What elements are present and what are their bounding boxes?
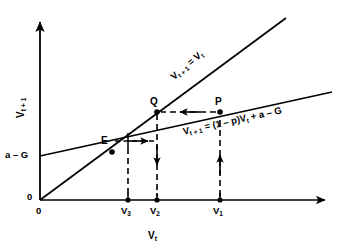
cobweb-diagram: Vt + 1 a – G 0 0 V3 V2 V1 Vt E Q P Vt + … — [0, 0, 337, 251]
origin-label-x: 0 — [36, 206, 41, 216]
point-label-p: P — [215, 97, 222, 107]
x-tick-label-v3: V3 — [121, 206, 131, 216]
x-axis-title: Vt — [148, 231, 157, 241]
point-marker-q — [154, 109, 160, 115]
y-intercept-label: a – G — [5, 150, 28, 160]
y-axis-title: Vt + 1 — [16, 98, 26, 118]
point-marker-p — [217, 109, 223, 115]
point-label-e: E — [101, 136, 108, 146]
dot-v3 — [125, 197, 130, 202]
identity-line — [40, 18, 286, 200]
dot-v1 — [217, 197, 222, 202]
point-marker-e — [109, 149, 115, 155]
origin-label-y: 0 — [27, 192, 32, 202]
x-tick-label-v1: V1 — [213, 206, 223, 216]
x-tick-label-v2: V2 — [150, 206, 160, 216]
point-label-q: Q — [150, 97, 158, 107]
plot-canvas — [0, 0, 337, 251]
dot-v2 — [154, 197, 159, 202]
